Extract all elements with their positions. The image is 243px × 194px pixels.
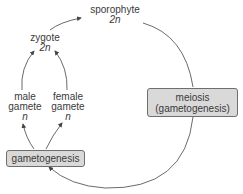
meiosis-box: meiosis (gametogenesis) xyxy=(147,88,238,117)
arrow-sporophyte-to-meiosis xyxy=(143,23,193,87)
arrow-gametogenesis-to-male xyxy=(23,124,34,149)
male-gamete-node: male gamete n xyxy=(6,92,44,122)
arrow-female-to-zygote xyxy=(55,51,67,90)
sporophyte-node: sporophyte 2n xyxy=(82,5,148,25)
zygote-ploidy: 2n xyxy=(22,43,68,53)
female-gamete-node: female gamete n xyxy=(48,92,88,122)
meiosis-line1: meiosis xyxy=(148,92,237,103)
male-gamete-ploidy: n xyxy=(6,112,44,122)
arrow-zygote-to-sporophyte xyxy=(50,18,81,30)
female-gamete-ploidy: n xyxy=(48,112,88,122)
arrow-gametogenesis-to-female xyxy=(46,123,62,149)
sporophyte-ploidy: 2n xyxy=(82,15,148,25)
zygote-node: zygote 2n xyxy=(22,33,68,53)
gametogenesis-box: gametogenesis xyxy=(6,150,85,167)
arrow-male-to-zygote xyxy=(22,51,34,90)
gametogenesis-label: gametogenesis xyxy=(7,153,84,164)
meiosis-line2: (gametogenesis) xyxy=(148,103,237,114)
